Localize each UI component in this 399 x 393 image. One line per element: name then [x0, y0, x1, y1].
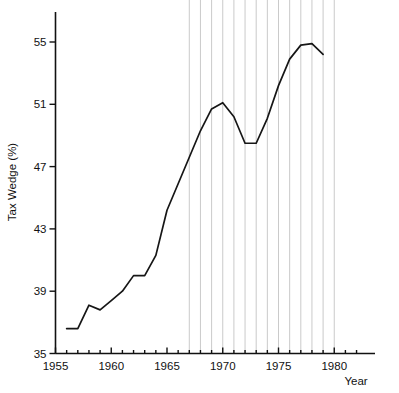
y-tick-label: 35: [34, 348, 47, 360]
x-tick-label: 1965: [154, 360, 180, 372]
data-series-line: [67, 44, 323, 329]
y-axis-tick-labels: 353943475155: [34, 36, 47, 360]
y-axis-ticks: [50, 42, 56, 354]
x-tick-label: 1980: [321, 360, 347, 372]
x-axis-title: Year: [344, 375, 367, 387]
axes: [56, 12, 376, 354]
x-axis-ticks: [56, 348, 357, 354]
gridlines: [189, 0, 334, 353]
tax-wedge-line-chart: 353943475155 195519601965197019751980 Ta…: [0, 0, 399, 393]
x-tick-label: 1955: [43, 360, 69, 372]
y-tick-label: 47: [34, 161, 47, 173]
y-axis-title: Tax Wedge (%): [6, 143, 18, 222]
x-tick-label: 1970: [210, 360, 236, 372]
chart-container: 353943475155 195519601965197019751980 Ta…: [0, 0, 399, 393]
x-axis-tick-labels: 195519601965197019751980: [43, 360, 347, 372]
y-tick-label: 51: [34, 98, 47, 110]
x-tick-label: 1960: [98, 360, 124, 372]
y-tick-label: 39: [34, 285, 47, 297]
x-tick-label: 1975: [266, 360, 292, 372]
y-tick-label: 55: [34, 36, 47, 48]
y-tick-label: 43: [34, 223, 47, 235]
